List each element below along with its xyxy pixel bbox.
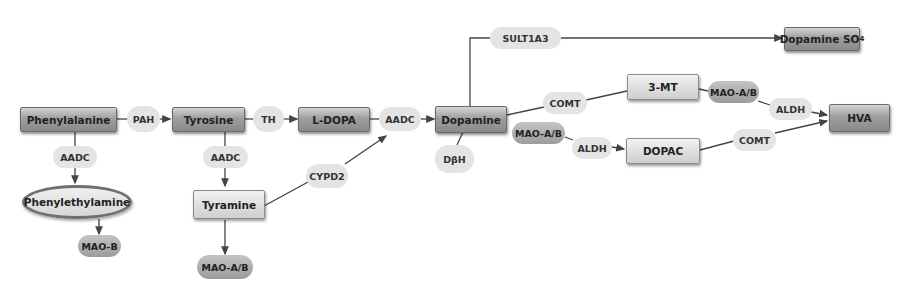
metabolite-phenylethylamine: Phenylethylamine [22,185,132,219]
metabolite-dopac: DOPAC [626,138,700,164]
metabolite-tyramine: Tyramine [193,190,265,219]
metabolite-dopamine-so4: Dopamine SO4 [784,27,860,51]
dopamine-so4-subscript: 4 [859,35,864,43]
metabolite-l-dopa: L-DOPA [298,107,370,132]
metabolite-tyrosine: Tyrosine [172,107,245,132]
enzyme-cypd2: CYPD2 [306,164,348,188]
metabolite-phenylalanine: Phenylalanine [20,107,117,132]
enzyme-aadc-tyrosine: AADC [203,146,248,168]
enzyme-mao-ab-tyramine: MAO-A/B [197,255,253,279]
enzyme-mao-ab-mid: MAO-A/B [512,122,565,144]
enzyme-th: TH [253,106,284,132]
metabolite-dopamine: Dopamine [435,106,507,133]
enzyme-mao-b: MAO-B [78,235,121,257]
dopamine-pathway-diagram: Phenylalanine Tyrosine L-DOPA Dopamine D… [0,0,910,295]
enzyme-dbh: DβH [435,145,474,173]
enzyme-comt-top: COMT [543,92,587,114]
enzyme-comt-bottom: COMT [733,129,776,151]
dopamine-so4-label: Dopamine SO [780,33,860,45]
enzyme-mao-ab-top: MAO-A/B [708,81,759,103]
enzyme-aadc-ldopa: AADC [379,107,421,131]
metabolite-hva: HVA [829,104,890,132]
enzyme-pah: PAH [127,106,160,132]
enzyme-sult1a3: SULT1A3 [490,27,561,49]
metabolite-3-mt: 3-MT [627,74,699,100]
enzyme-aadc-phenylalanine: AADC [53,146,97,168]
enzyme-aldh-top: ALDH [769,98,812,120]
enzyme-aldh-mid: ALDH [572,137,612,159]
